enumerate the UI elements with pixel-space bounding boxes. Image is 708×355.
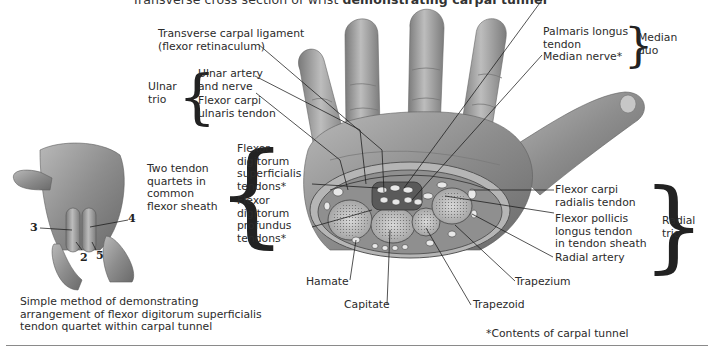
- wrist-cross-section: [310, 162, 510, 258]
- label-trapezium: Trapezium: [515, 276, 571, 289]
- label-fds-tendons: Flexor digitorum superficialis tendons*: [237, 143, 301, 193]
- label-hamate: Hamate: [306, 276, 349, 289]
- label-capitate: Capitate: [344, 299, 390, 312]
- inset-hand: [13, 143, 133, 290]
- label-flexor-carpi-ulnaris: Flexor carpi ulnaris tendon: [198, 95, 276, 120]
- label-two-tendon-quartets: Two tendon quartets in common flexor she…: [147, 163, 218, 213]
- label-radial-trio: Radial trio: [662, 215, 695, 240]
- label-flexor-pollicis-longus: Flexor pollicis longus tendon in tendon …: [555, 213, 647, 251]
- label-transverse-carpal-ligament: Transverse carpal ligament (flexor retin…: [158, 28, 304, 53]
- label-ulnar-artery-nerve: Ulnar artery and nerve: [198, 68, 263, 93]
- finger-number-3: 3: [30, 221, 38, 234]
- bottom-rule: [6, 345, 708, 346]
- finger-number-4: 4: [128, 212, 136, 225]
- label-radial-artery: Radial artery: [555, 252, 625, 265]
- label-fdp-tendons: Flexor digitorum profundus tendons*: [237, 195, 291, 245]
- label-ulnar-trio: Ulnar trio: [148, 81, 177, 106]
- label-flexor-carpi-radialis: Flexor carpi radialis tendon: [555, 184, 636, 209]
- label-median-nerve: Median nerve*: [543, 51, 622, 64]
- label-trapezoid: Trapezoid: [473, 299, 525, 312]
- label-median-duo: Median duo: [638, 32, 677, 57]
- finger-number-2: 2: [80, 251, 88, 264]
- inset-caption: Simple method of demonstrating arrangeme…: [20, 296, 262, 334]
- finger-number-5: 5: [96, 249, 104, 262]
- footnote: *Contents of carpal tunnel: [486, 328, 629, 341]
- label-palmaris-longus: Palmaris longus tendon: [543, 26, 628, 51]
